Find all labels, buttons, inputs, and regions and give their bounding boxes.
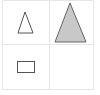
large-filled-triangle (55, 3, 86, 42)
puzzle-canvas (0, 0, 100, 95)
shape-matrix-puzzle (0, 0, 100, 95)
small-outline-rectangle (18, 62, 35, 73)
small-outline-triangle (18, 12, 33, 33)
empty-answer-cell[interactable] (50, 45, 93, 89)
